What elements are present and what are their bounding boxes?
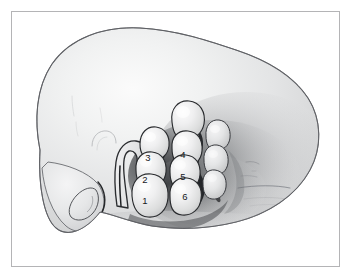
hillock-label-1: 1 — [139, 196, 151, 206]
figure-root: 1 2 3 4 5 6 — [0, 0, 352, 280]
anatomical-illustration — [0, 0, 352, 280]
hillock-column-lateral — [203, 120, 230, 199]
hillock-label-4: 4 — [177, 150, 189, 160]
hillock-label-5: 5 — [177, 172, 189, 182]
hillock-label-6: 6 — [179, 192, 191, 202]
hillock-label-2: 2 — [139, 175, 151, 185]
hillock-label-3: 3 — [142, 153, 154, 163]
